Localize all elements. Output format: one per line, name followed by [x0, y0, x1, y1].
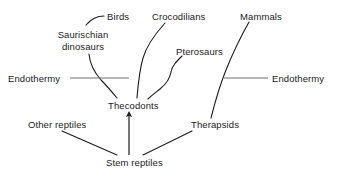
node-label-crocodilians: Crocodilians [152, 11, 205, 22]
node-label-endothermy-right: Endothermy [272, 73, 324, 84]
node-label-other-reptiles: Other reptiles [28, 119, 86, 130]
node-label-stem-reptiles: Stem reptiles [106, 157, 163, 168]
edge-stem-reptiles-to-therapsids [143, 131, 192, 155]
node-label-pterosaurs: Pterosaurs [176, 46, 223, 57]
edge-pterosaurs-to-thecodonts [148, 56, 182, 99]
edge-birds-to-saurischian [86, 16, 104, 25]
edge-crocodilians-to-thecodonts [137, 23, 165, 98]
diagram-canvas [0, 0, 339, 179]
node-label-thecodonts: Thecodonts [108, 100, 159, 111]
node-label-saurischian-dinosaurs: Saurischiandinosaurs [47, 29, 119, 52]
node-label-mammals: Mammals [240, 11, 282, 22]
node-label-therapsids: Therapsids [191, 119, 239, 130]
lineage-diagram: Birds Saurischiandinosaurs Crocodilians … [0, 0, 339, 179]
node-label-endothermy-left: Endothermy [8, 73, 60, 84]
saurischian-line-1: Saurischian [58, 29, 109, 40]
edge-mammals-to-therapsids [211, 22, 249, 118]
edge-saurischian-to-thecodonts [89, 54, 117, 98]
saurischian-line-2: dinosaurs [62, 41, 104, 52]
node-label-birds: Birds [107, 11, 129, 22]
edge-stem-reptiles-to-other-reptiles [62, 131, 117, 155]
